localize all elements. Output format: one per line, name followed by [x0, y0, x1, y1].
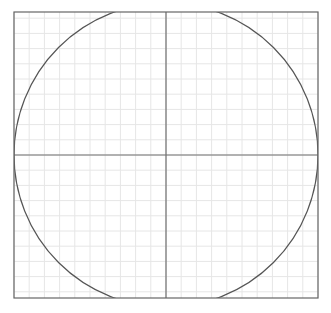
- circle-diagram: [0, 0, 331, 313]
